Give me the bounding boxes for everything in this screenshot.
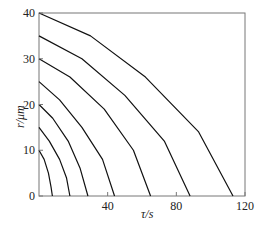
curve-r0=10 <box>39 150 52 196</box>
curve-r0=30 <box>39 59 151 196</box>
curves <box>39 13 233 196</box>
svg-text:10: 10 <box>23 143 35 157</box>
plot-frame <box>39 13 245 196</box>
axis-ticks: 4080120010203040 <box>23 6 254 213</box>
curve-r0=20 <box>39 105 88 197</box>
curve-r0=25 <box>39 82 115 196</box>
svg-text:40: 40 <box>102 199 114 213</box>
svg-text:120: 120 <box>236 199 254 213</box>
x-axis-label: τ/s <box>141 207 154 221</box>
svg-text:30: 30 <box>23 52 35 66</box>
svg-text:80: 80 <box>170 199 182 213</box>
curve-r0=35 <box>39 36 190 196</box>
y-axis-label: r/μm <box>13 105 27 128</box>
svg-text:0: 0 <box>29 189 35 203</box>
curve-r0=40 <box>39 13 233 196</box>
chart-plot: 4080120010203040 τ/s r/μm <box>0 0 259 233</box>
svg-text:40: 40 <box>23 6 35 20</box>
